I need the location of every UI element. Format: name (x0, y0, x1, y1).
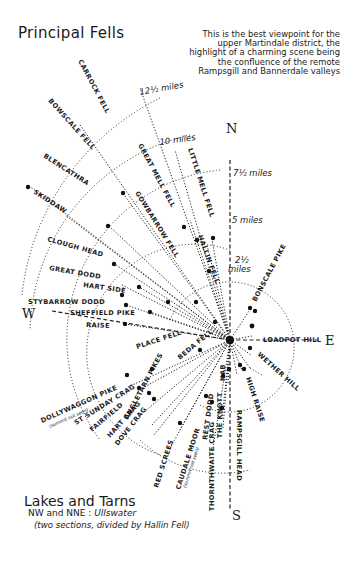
fell-label: RAISE (86, 321, 110, 330)
fell-label: WETHER HILL (256, 351, 302, 394)
fell-label: THE KNOTT (216, 392, 224, 438)
fell-label: SKIDDAW (32, 188, 69, 216)
fell-label: BLENCATHRA (42, 152, 91, 188)
fell-label: RAMPSGILL HEAD (235, 410, 243, 481)
ring-label-2-5-bottom: miles (228, 264, 251, 274)
lakes-direction: NW and NNE : (28, 508, 94, 518)
fell-labels: CARROCK FELL BOWSCALE FELL BLENCATHRA SK… (28, 58, 322, 511)
fell-label: PLACE FELL (135, 329, 183, 351)
fell-label: LOADPOT HILL (263, 336, 322, 344)
fell-label: GREAT DODD (49, 264, 102, 281)
lake-name: Ullswater (94, 508, 136, 518)
lakes-note: (two sections, divided by Hallin Fell) (34, 520, 190, 530)
compass-north: N (226, 121, 237, 136)
ring-label-7-5: 7½ miles (233, 168, 273, 178)
fell-label: HART SIDE (83, 281, 127, 295)
fell-label: BONSCALE PIKE (251, 243, 288, 303)
fell-label: RED SCREES (152, 439, 175, 489)
fell-label: LITTLE MELL FELL (186, 147, 216, 219)
centre-viewpoint-dot (226, 336, 234, 344)
compass-south: S (232, 508, 241, 523)
ring-label-12-5: 12½ miles (139, 79, 185, 97)
fell-label: HIGH RAISE (244, 376, 266, 423)
fell-direction-diagram: N S E W 12½ miles 10 miles 7½ miles 5 mi… (0, 0, 359, 561)
fell-label: STYBARROW DODD (28, 298, 105, 306)
fell-label: CARROCK FELL (76, 58, 111, 115)
lakes-line: NW and NNE : Ullswater (28, 508, 136, 518)
fell-label: NAB (219, 364, 227, 381)
lakes-heading: Lakes and Tarns (24, 493, 136, 509)
compass-east: E (325, 333, 335, 348)
fell-label: BOWSCALE FELL (47, 97, 98, 152)
compass-west: W (22, 306, 36, 321)
ring-label-5: 5 miles (232, 215, 263, 225)
ring-label-10: 10 miles (159, 132, 197, 147)
fell-label: SHEFFIELD PIKE (70, 309, 135, 317)
